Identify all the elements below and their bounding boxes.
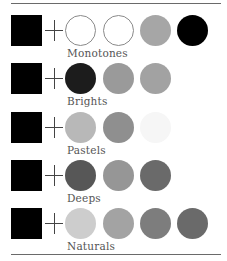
base-black-square bbox=[11, 112, 42, 143]
plus-icon bbox=[45, 213, 63, 234]
bottom-divider bbox=[11, 254, 221, 255]
color-swatch bbox=[140, 160, 171, 191]
group-label: Pastels bbox=[67, 144, 106, 156]
plus-icon bbox=[45, 165, 63, 186]
plus-icon bbox=[45, 117, 63, 138]
group-label: Brights bbox=[67, 95, 108, 107]
group-naturals: Naturals bbox=[0, 208, 227, 256]
color-swatch bbox=[140, 15, 171, 46]
group-brights: Brights bbox=[0, 63, 227, 111]
base-black-square bbox=[11, 208, 42, 239]
plus-icon bbox=[45, 68, 63, 89]
color-swatch bbox=[103, 112, 134, 143]
plus-icon bbox=[45, 20, 63, 41]
color-swatch bbox=[65, 160, 96, 191]
color-swatch bbox=[103, 15, 134, 46]
color-swatch bbox=[177, 208, 208, 239]
top-divider bbox=[11, 3, 221, 4]
group-deeps: Deeps bbox=[0, 160, 227, 208]
base-black-square bbox=[11, 160, 42, 191]
color-swatch bbox=[140, 208, 171, 239]
base-black-square bbox=[11, 15, 42, 46]
color-swatch bbox=[103, 160, 134, 191]
color-swatch bbox=[140, 112, 171, 143]
color-swatch bbox=[103, 208, 134, 239]
color-swatch bbox=[177, 15, 208, 46]
color-swatch bbox=[140, 63, 171, 94]
color-swatch bbox=[65, 208, 96, 239]
group-label: Monotones bbox=[67, 47, 128, 59]
group-monotones: Monotones bbox=[0, 15, 227, 63]
color-swatch bbox=[65, 112, 96, 143]
group-label: Deeps bbox=[67, 192, 101, 204]
group-label: Naturals bbox=[67, 240, 115, 252]
base-black-square bbox=[11, 63, 42, 94]
color-swatch bbox=[65, 63, 96, 94]
color-swatch bbox=[103, 63, 134, 94]
group-pastels: Pastels bbox=[0, 112, 227, 160]
color-swatch bbox=[65, 15, 96, 46]
